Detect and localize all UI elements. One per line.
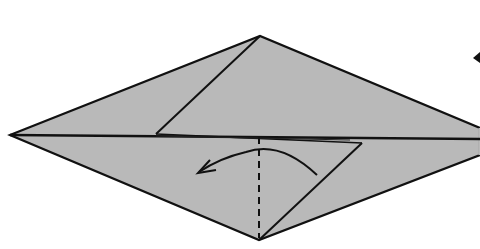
diagram-canvas xyxy=(0,0,480,249)
offscreen-arrowhead-icon xyxy=(473,52,480,63)
origami-diagram xyxy=(0,0,480,249)
